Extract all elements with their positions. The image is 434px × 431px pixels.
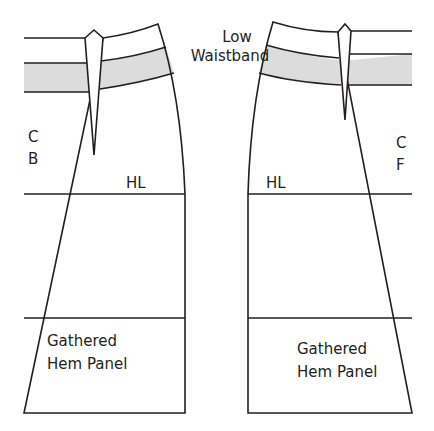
back-hem-line1: Gathered [47, 330, 127, 353]
center-front-line2: F [396, 154, 406, 176]
center-back-line1: C [28, 126, 38, 148]
front-hem-panel-label: Gathered Hem Panel [297, 338, 377, 384]
low-waistband-line2: Waistband [183, 47, 277, 66]
low-waistband-line1: Low [197, 28, 277, 47]
back-hem-panel-label: Gathered Hem Panel [47, 330, 127, 376]
center-front-label: C F [396, 132, 406, 176]
back-hip-line-label: HL [126, 174, 146, 193]
center-back-line2: B [28, 148, 38, 170]
low-waistband-label: Low Waistband [197, 28, 277, 66]
front-waistband-band [259, 45, 412, 85]
center-back-label: C B [28, 126, 38, 170]
front-hem-line2: Hem Panel [297, 361, 377, 384]
back-hem-line2: Hem Panel [47, 353, 127, 376]
center-front-line1: C [396, 132, 406, 154]
front-hem-line1: Gathered [297, 338, 377, 361]
front-hip-line-label: HL [266, 174, 286, 193]
